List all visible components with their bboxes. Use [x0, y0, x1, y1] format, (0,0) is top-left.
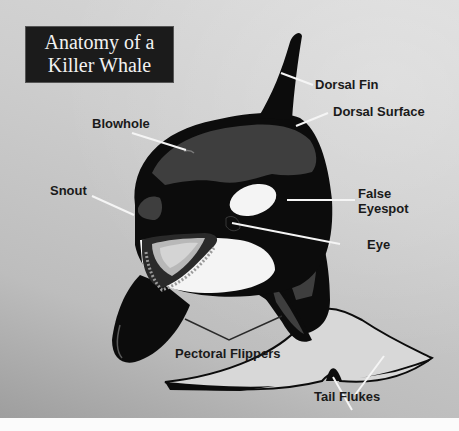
- label-false-eyespot-line-1: False: [358, 186, 409, 201]
- label-dorsal-fin: Dorsal Fin: [315, 77, 379, 92]
- label-pectoral-flippers: Pectoral Flippers: [175, 346, 280, 361]
- pectoral-leader-lines: [185, 316, 282, 340]
- diagram-canvas: Anatomy of a Killer Whale Dorsal Fin Dor…: [0, 0, 459, 418]
- label-blowhole: Blowhole: [92, 116, 150, 131]
- label-eye: Eye: [367, 237, 390, 252]
- label-false-eyespot: False Eyespot: [358, 186, 409, 216]
- label-tail-flukes: Tail Flukes: [314, 389, 380, 404]
- dorsal-fin-shape: [258, 33, 302, 120]
- label-dorsal-surface: Dorsal Surface: [333, 104, 425, 119]
- bottom-margin: [0, 418, 459, 431]
- label-false-eyespot-line-2: Eyespot: [358, 201, 409, 216]
- title-line-1: Anatomy of a: [26, 31, 173, 54]
- title-line-2: Killer Whale: [26, 54, 173, 77]
- label-snout: Snout: [50, 183, 87, 198]
- diagram-title: Anatomy of a Killer Whale: [25, 26, 174, 83]
